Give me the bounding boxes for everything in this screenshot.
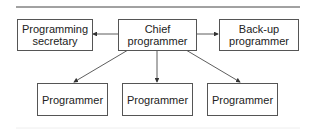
node-label-line2: secretary bbox=[32, 35, 77, 47]
node-label: Programmer bbox=[212, 94, 273, 106]
node-programming-secretary: Programmingsecretary bbox=[17, 19, 93, 51]
node-label-line1: Chief bbox=[145, 23, 171, 35]
node-label: Programmer bbox=[42, 94, 103, 106]
edge-chief-programmer1 bbox=[74, 50, 128, 82]
node-backup-programmer: Back-upprogrammer bbox=[219, 19, 299, 51]
node-chief-programmer: Chiefprogrammer bbox=[118, 19, 197, 51]
edge-chief-programmer3 bbox=[186, 50, 240, 82]
node-programmer-1: Programmer bbox=[37, 83, 108, 116]
node-label-line2: programmer bbox=[128, 35, 188, 47]
node-label-line1: Back-up bbox=[239, 23, 279, 35]
node-label: Programmer bbox=[127, 94, 188, 106]
node-programmer-2: Programmer bbox=[122, 83, 193, 116]
node-programmer-3: Programmer bbox=[207, 83, 278, 116]
node-label-line1: Programming bbox=[22, 23, 88, 35]
node-label-line2: programmer bbox=[229, 35, 289, 47]
